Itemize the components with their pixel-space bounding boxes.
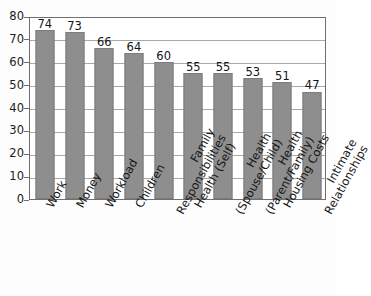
x-tick-label-slot: Workload bbox=[88, 201, 118, 296]
x-tick-label-slot: Money bbox=[59, 201, 89, 296]
bar-value-label: 51 bbox=[275, 70, 290, 82]
x-axis: WorkMoneyWorkloadChildrenFamilyResponsib… bbox=[29, 201, 326, 296]
y-tick-label: 80 bbox=[0, 11, 24, 23]
x-tick-label-slot: FamilyResponsibilities bbox=[148, 201, 178, 296]
y-tick-label: 30 bbox=[0, 125, 24, 137]
bar-value-label: 66 bbox=[97, 36, 112, 48]
y-tick-label: 50 bbox=[0, 80, 24, 92]
x-tick-label-slot: Health(Parent/Family) bbox=[237, 201, 267, 296]
y-tick-label: 20 bbox=[0, 148, 24, 160]
y-tick-label: 70 bbox=[0, 34, 24, 46]
y-tick-label: 60 bbox=[0, 57, 24, 69]
x-tick-label-slot: Health (Self) bbox=[178, 201, 208, 296]
x-tick-label-slot: Health(Spouse/Child) bbox=[207, 201, 237, 296]
bar-slot: 74 bbox=[30, 18, 60, 199]
bar-value-label: 73 bbox=[67, 20, 82, 32]
y-tick-label: 40 bbox=[0, 103, 24, 115]
y-tick-label: 10 bbox=[0, 171, 24, 183]
bar-value-label: 53 bbox=[245, 66, 260, 78]
y-tick-label: 0 bbox=[0, 194, 24, 206]
x-tick-label-slot: IntimateRelationships bbox=[296, 201, 326, 296]
x-tick-label-slot: Housing Costs bbox=[267, 201, 297, 296]
bar-value-label: 74 bbox=[38, 18, 53, 30]
bar-value-label: 60 bbox=[156, 50, 171, 62]
x-tick-label-slot: Children bbox=[118, 201, 148, 296]
x-tick-label-slot: Work bbox=[29, 201, 59, 296]
bar[interactable] bbox=[65, 32, 84, 199]
bar[interactable] bbox=[35, 30, 54, 199]
bar-value-label: 55 bbox=[186, 61, 201, 73]
bar-value-label: 47 bbox=[305, 79, 320, 91]
bar-value-label: 55 bbox=[216, 61, 231, 73]
bar-slot: 73 bbox=[60, 18, 90, 199]
bar-value-label: 64 bbox=[127, 41, 142, 53]
